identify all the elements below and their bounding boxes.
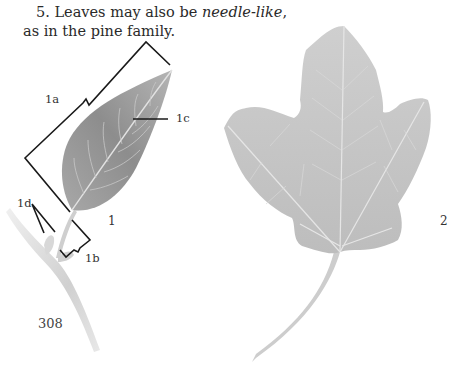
leaf-1-illustration [6,70,172,352]
label-1a: 1a [45,92,59,106]
figure-2-number: 2 [440,214,448,228]
page-number: 308 [38,316,63,331]
illustrations [0,0,462,372]
label-1b: 1b [85,251,100,265]
pointer-1d [32,204,55,233]
leaf-2-illustration [224,26,431,362]
figure-1-number: 1 [108,214,116,228]
label-1c: 1c [176,111,190,125]
label-1d: 1d [17,196,32,210]
